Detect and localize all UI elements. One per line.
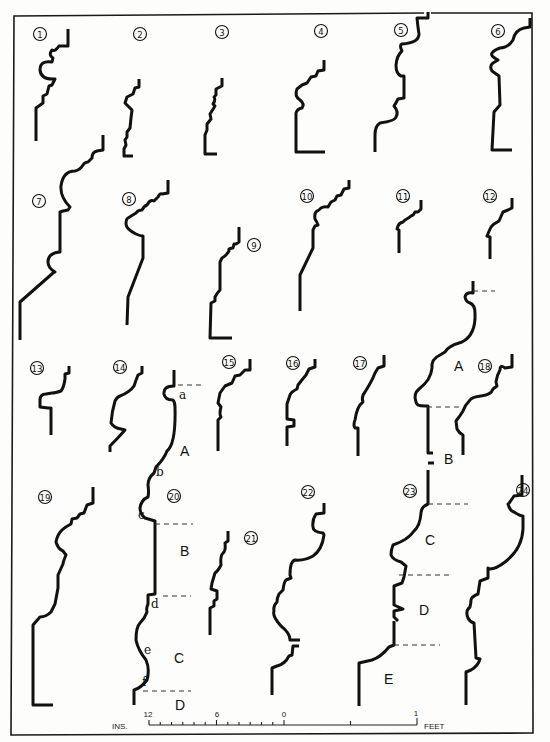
segment-label-a: A (180, 443, 190, 459)
segment-letter-labels: ABCDABCDE (174, 358, 464, 713)
moulding-profile-4 (296, 60, 325, 152)
profile-number-8: 8 (123, 193, 136, 206)
profile-number-9: 9 (248, 239, 261, 252)
moulding-profile-17 (354, 355, 384, 456)
segment-label-c: C (425, 532, 435, 548)
profile-number-labels: 123456789101112131415161718192021222324 (31, 24, 530, 545)
moulding-profile-20 (134, 370, 175, 705)
profile-number-text: 21 (246, 534, 257, 544)
moulding-profile-A-large (415, 281, 475, 463)
profile-number-18: 18 (479, 360, 492, 373)
profile-number-text: 22 (303, 488, 314, 498)
profile-number-text: 10 (302, 192, 313, 202)
profile-number-text: 18 (480, 362, 491, 372)
point-label-a: a (179, 388, 186, 402)
moulding-profiles-plate: 123456789101112131415161718192021222324 … (0, 0, 550, 742)
scale-tick-label: 12 (144, 710, 153, 719)
segment-label-d: D (419, 602, 429, 618)
profile-number-text: 6 (495, 27, 500, 37)
profile-number-text: 3 (219, 28, 224, 38)
plate-frame (11, 13, 533, 735)
profile-number-text: 8 (126, 195, 131, 205)
moulding-profile-15 (218, 359, 250, 451)
profile-number-text: 16 (288, 359, 299, 369)
profile-number-16: 16 (287, 357, 300, 370)
scale-tick-label: 6 (215, 710, 220, 719)
scale-right-label: FEET (424, 722, 445, 731)
segment-label-e: E (384, 671, 393, 687)
profile-number-6: 6 (492, 25, 505, 38)
point-label-d: d (151, 597, 159, 611)
profile-number-text: 14 (115, 363, 126, 373)
profile-number-text: 9 (251, 241, 256, 251)
profile-number-text: 1 (37, 30, 42, 40)
segment-label-b: B (180, 543, 189, 559)
profile-number-24: 24 (517, 484, 530, 497)
moulding-profile-22 (272, 503, 324, 695)
profile-number-10: 10 (301, 190, 314, 203)
moulding-profile-2 (124, 79, 139, 156)
profile-number-22: 22 (302, 486, 315, 499)
profile-number-11: 11 (397, 190, 410, 203)
profile-number-text: 23 (405, 487, 416, 497)
segment-label-d: D (175, 697, 185, 713)
point-label-e: e (144, 643, 151, 657)
moulding-profile-12 (487, 198, 512, 259)
point-label-c: c (138, 508, 145, 522)
profile-number-text: 12 (485, 192, 496, 202)
callout-dashed-lines (143, 291, 495, 691)
moulding-profile-23 (359, 470, 428, 706)
moulding-profile-9 (210, 227, 239, 338)
profile-number-14: 14 (114, 361, 127, 374)
moulding-profile-1 (36, 29, 68, 141)
profile-number-4: 4 (315, 25, 328, 38)
moulding-profile-7 (20, 135, 103, 340)
segment-label-c: C (174, 650, 184, 666)
segment-label-a: A (454, 358, 464, 374)
profile-number-20: 20 (168, 490, 181, 503)
plate-drawing: 123456789101112131415161718192021222324 … (0, 0, 550, 742)
profile-number-text: 19 (40, 493, 51, 503)
profile-number-2: 2 (134, 28, 147, 41)
scale-end-label: 1 (414, 709, 419, 718)
profile-number-text: 15 (224, 358, 235, 368)
moulding-profile-8 (126, 180, 168, 325)
profile-number-text: 11 (398, 192, 409, 202)
profile-number-5: 5 (395, 24, 408, 37)
moulding-profile-3 (205, 78, 222, 154)
moulding-profile-19 (33, 487, 93, 705)
point-label-b: b (156, 465, 164, 479)
profile-number-text: 13 (32, 364, 43, 374)
profile-number-13: 13 (31, 362, 44, 375)
profile-number-text: 7 (36, 197, 41, 207)
point-letter-labels: abcdef (138, 388, 186, 689)
scale-bar: INS. FEET 12601 (112, 709, 445, 731)
profile-number-19: 19 (39, 491, 52, 504)
scale-left-label: INS. (112, 722, 128, 731)
moulding-profile-13 (40, 366, 69, 435)
profile-number-1: 1 (34, 28, 47, 41)
profile-number-text: 5 (398, 26, 403, 36)
moulding-profile-14 (110, 366, 142, 452)
profile-number-text: 2 (137, 30, 142, 40)
segment-label-b: B (444, 451, 453, 467)
profile-number-text: 17 (355, 359, 366, 369)
moulding-profile-24 (466, 475, 523, 705)
scale-tick-label: 0 (282, 710, 287, 719)
profile-number-15: 15 (223, 356, 236, 369)
profile-number-17: 17 (354, 357, 367, 370)
profile-number-3: 3 (216, 26, 229, 39)
profile-number-text: 20 (169, 492, 180, 502)
profile-number-text: 4 (318, 27, 323, 37)
moulding-profile-16 (287, 359, 315, 446)
moulding-profile-11 (397, 200, 421, 253)
profile-number-12: 12 (484, 190, 497, 203)
frame-border (11, 13, 533, 735)
profile-number-text: 24 (518, 486, 529, 496)
profile-number-7: 7 (33, 195, 46, 208)
profile-number-23: 23 (404, 485, 417, 498)
profile-number-21: 21 (245, 532, 258, 545)
moulding-profile-21 (210, 531, 228, 635)
